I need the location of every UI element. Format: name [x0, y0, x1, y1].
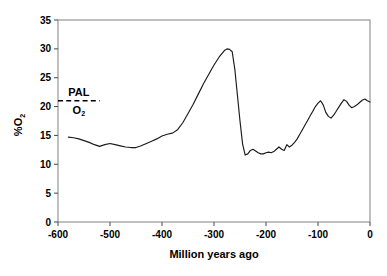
x-tick-label: -200	[256, 229, 276, 240]
y-tick-label: 10	[40, 159, 52, 170]
y-tick-label: 5	[45, 188, 51, 199]
y-axis-title-subscript: 2	[19, 114, 26, 118]
y-tick-label: 20	[40, 101, 52, 112]
chart-canvas: 05101520253035 -600-500-400-300-200-1000…	[0, 0, 387, 276]
x-tick-label: -100	[308, 229, 328, 240]
x-tick-label: -500	[100, 229, 120, 240]
y-tick-label: 0	[45, 217, 51, 228]
x-tick-label: -400	[152, 229, 172, 240]
y-tick-label: 35	[40, 15, 52, 26]
x-tick-label: 0	[367, 229, 373, 240]
pal-o2-subscript: 2	[81, 110, 85, 117]
pal-label: PAL	[68, 86, 89, 98]
oxygen-chart-figure: 05101520253035 -600-500-400-300-200-1000…	[0, 0, 387, 276]
x-tick-label: -600	[48, 229, 68, 240]
x-tick-label: -300	[204, 229, 224, 240]
x-axis-title: Million years ago	[169, 248, 259, 260]
y-tick-label: 15	[40, 130, 52, 141]
y-tick-label: 30	[40, 43, 52, 54]
y-axis-title-main: %O	[12, 117, 24, 136]
y-tick-label: 25	[40, 72, 52, 83]
